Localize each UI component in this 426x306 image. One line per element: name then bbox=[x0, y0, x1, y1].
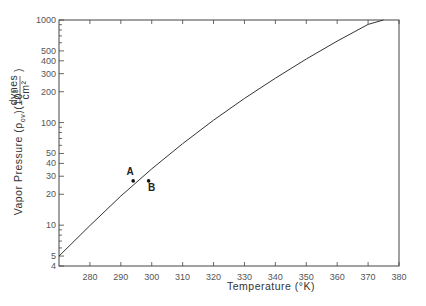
y-axis-title-close: ) bbox=[12, 68, 24, 72]
plot-frame bbox=[59, 20, 399, 266]
vapor-pressure-curve bbox=[59, 20, 384, 256]
y-axis-title: Vapor Pressure (ρov)(103 dynes cm² ) bbox=[7, 68, 31, 215]
y-tick-label: 500 bbox=[41, 46, 56, 56]
x-tick-label: 280 bbox=[82, 272, 97, 282]
x-tick-label: 290 bbox=[113, 272, 128, 282]
y-axis-title-frac-num: dynes bbox=[7, 75, 19, 106]
y-tick-label: 100 bbox=[41, 118, 56, 128]
data-point-label-a: A bbox=[127, 166, 134, 177]
data-point-label-b: B bbox=[148, 182, 155, 193]
y-axis-title-sub: ov bbox=[19, 114, 26, 122]
y-tick-label: 4 bbox=[51, 261, 56, 271]
x-tick-label: 320 bbox=[206, 272, 221, 282]
y-tick-label: 1000 bbox=[36, 15, 56, 25]
axis-ticks bbox=[59, 20, 399, 266]
y-axis-title-frac-den: cm² bbox=[19, 81, 31, 100]
vapor-pressure-chart: 280290300310320330340350360370380 451020… bbox=[0, 0, 426, 306]
y-tick-label: 20 bbox=[46, 189, 56, 199]
y-tick-label: 50 bbox=[46, 148, 56, 158]
svg-text:Vapor Pressure (ρov)(103: Vapor Pressure (ρov)(103 bbox=[12, 89, 26, 216]
x-tick-label: 310 bbox=[175, 272, 190, 282]
x-tick-label: 360 bbox=[330, 272, 345, 282]
x-tick-label: 380 bbox=[391, 272, 406, 282]
y-tick-labels: 4510203040501002003004005001000 bbox=[36, 15, 56, 271]
x-tick-label: 370 bbox=[361, 272, 376, 282]
y-tick-label: 30 bbox=[46, 171, 56, 181]
y-tick-label: 5 bbox=[51, 251, 56, 261]
y-tick-label: 40 bbox=[46, 158, 56, 168]
y-tick-label: 400 bbox=[41, 56, 56, 66]
y-axis-title-main: Vapor Pressure (ρ bbox=[12, 122, 24, 215]
y-tick-label: 300 bbox=[41, 69, 56, 79]
data-point-a bbox=[131, 179, 135, 183]
y-tick-label: 10 bbox=[46, 220, 56, 230]
y-tick-label: 200 bbox=[41, 87, 56, 97]
x-axis-title: Temperature (°K) bbox=[227, 280, 315, 292]
x-tick-label: 300 bbox=[144, 272, 159, 282]
